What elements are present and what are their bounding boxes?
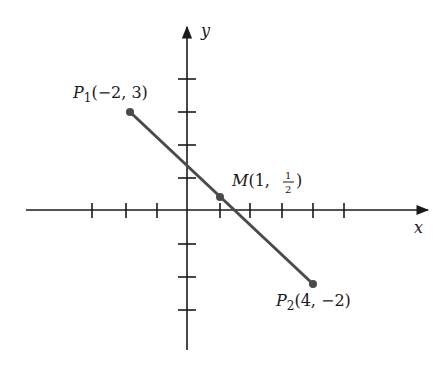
svg-text:M(1,: M(1,: [231, 171, 270, 190]
label-m-frac-num: 1: [285, 170, 291, 181]
label-p1: P1(−2, 3): [72, 83, 148, 105]
label-m: M(1, 1 2 ): [231, 170, 302, 195]
label-m-close: ): [296, 171, 302, 190]
y-axis-label: y: [200, 21, 211, 40]
point-p1: [126, 108, 134, 116]
x-axis-label: x: [414, 218, 423, 237]
coordinate-diagram: x y P1(−2, 3) M(1, 1 2 ) P2(4, −2): [0, 0, 446, 369]
label-p2: P2(4, −2): [275, 291, 351, 313]
label-m-frac-den: 2: [285, 184, 291, 195]
point-p2: [309, 280, 317, 288]
point-m: [216, 193, 224, 201]
